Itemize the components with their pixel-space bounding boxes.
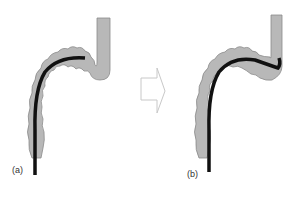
diagram-canvas bbox=[0, 0, 299, 197]
right-arrow-icon bbox=[141, 68, 165, 113]
panel-b-label: (b) bbox=[187, 169, 198, 179]
panel-a-label: (a) bbox=[12, 165, 23, 175]
colonoscope-a bbox=[35, 58, 85, 175]
